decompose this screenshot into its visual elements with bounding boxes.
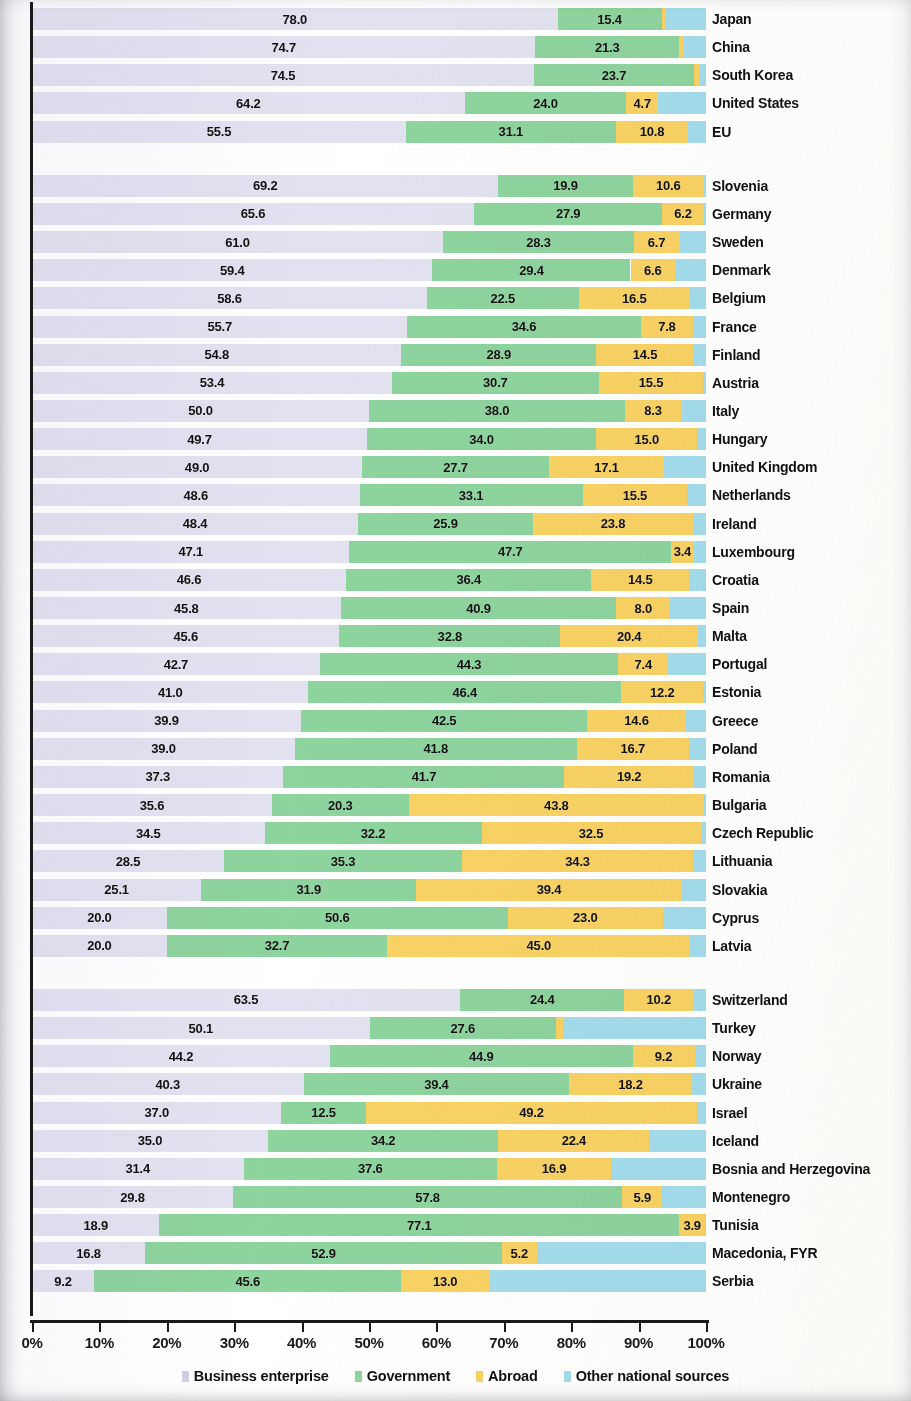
bar-segment-business-enterprise: 41.0 <box>32 681 308 703</box>
bar-segment-government: 57.8 <box>233 1186 623 1208</box>
segment-value-label: 15.5 <box>623 488 648 503</box>
bar-segment-abroad: 18.2 <box>569 1073 692 1095</box>
bar-row: 35.034.222.4 <box>32 1130 706 1152</box>
bar-segment-other <box>693 316 706 338</box>
bar-segment-government: 31.9 <box>201 879 416 901</box>
bar-segment-business-enterprise: 55.5 <box>32 121 406 143</box>
bar-row: 54.828.914.5 <box>32 344 706 366</box>
bar-segment-government: 77.1 <box>159 1214 679 1236</box>
segment-value-label: 36.4 <box>456 572 481 587</box>
bar-row: 39.041.816.7 <box>32 738 706 760</box>
bar-row: 20.032.745.0 <box>32 935 706 957</box>
bar-row: 64.224.04.7 <box>32 92 706 114</box>
bar-segment-abroad: 15.5 <box>583 484 687 506</box>
bar-row: 18.977.13.9 <box>32 1214 706 1236</box>
segment-value-label: 29.8 <box>120 1190 145 1205</box>
bar-segment-government: 44.3 <box>320 653 619 675</box>
bar-segment-government: 34.2 <box>268 1130 499 1152</box>
bar-segment-other <box>684 36 706 58</box>
segment-value-label: 9.2 <box>54 1274 71 1289</box>
x-axis-tick <box>32 1323 34 1332</box>
country-label: Greece <box>712 710 758 732</box>
bar-segment-abroad: 10.6 <box>633 175 704 197</box>
bar-segment-abroad: 14.6 <box>587 710 685 732</box>
segment-value-label: 47.7 <box>498 544 523 559</box>
bar-segment-other <box>665 8 706 30</box>
bar-segment-business-enterprise: 9.2 <box>32 1270 94 1292</box>
bar-segment-government: 34.6 <box>407 316 640 338</box>
segment-value-label: 20.0 <box>87 938 112 953</box>
segment-value-label: 12.5 <box>311 1105 336 1120</box>
bar-segment-government: 32.8 <box>339 625 560 647</box>
country-label: Sweden <box>712 231 764 253</box>
bar-segment-abroad: 13.0 <box>401 1270 489 1292</box>
segment-value-label: 45.6 <box>235 1274 260 1289</box>
bar-segment-other <box>694 766 706 788</box>
country-label: Ireland <box>712 513 757 535</box>
segment-value-label: 31.1 <box>499 124 524 139</box>
segment-value-label: 8.3 <box>644 403 661 418</box>
segment-value-label: 42.7 <box>164 657 189 672</box>
country-label: Bosnia and Herzegovina <box>712 1158 870 1180</box>
country-label: Turkey <box>712 1017 756 1039</box>
bar-row: 48.425.923.8 <box>32 513 706 535</box>
bar-segment-other <box>563 1017 706 1039</box>
x-axis-tick <box>234 1323 236 1332</box>
bar-segment-other <box>693 513 706 535</box>
x-axis-tick-label: 100% <box>687 1334 724 1351</box>
bar-segment-abroad: 5.2 <box>502 1242 537 1264</box>
bar-segment-other <box>663 907 706 929</box>
segment-value-label: 24.4 <box>530 992 555 1007</box>
bar-segment-business-enterprise: 44.2 <box>32 1045 330 1067</box>
bar-segment-other <box>697 428 706 450</box>
country-label: Macedonia, FYR <box>712 1242 817 1264</box>
bar-segment-business-enterprise: 39.0 <box>32 738 295 760</box>
bar-segment-abroad: 39.4 <box>416 879 682 901</box>
bar-row: 28.535.334.3 <box>32 850 706 872</box>
segment-value-label: 24.0 <box>533 96 558 111</box>
bar-row: 25.131.939.4 <box>32 879 706 901</box>
bar-segment-business-enterprise: 78.0 <box>32 8 558 30</box>
bar-segment-government: 42.5 <box>301 710 587 732</box>
bar-segment-government: 20.3 <box>272 794 409 816</box>
segment-value-label: 16.8 <box>76 1246 101 1261</box>
segment-value-label: 19.2 <box>617 769 642 784</box>
x-axis-tick-label: 10% <box>85 1334 114 1351</box>
bar-segment-business-enterprise: 50.0 <box>32 400 369 422</box>
segment-value-label: 5.9 <box>634 1190 651 1205</box>
country-label: Latvia <box>712 935 751 957</box>
bar-segment-other <box>662 1186 706 1208</box>
country-label: Switzerland <box>712 989 788 1011</box>
bar-segment-other <box>704 794 706 816</box>
bar-segment-business-enterprise: 34.5 <box>32 822 265 844</box>
segment-value-label: 42.5 <box>432 713 457 728</box>
segment-value-label: 49.7 <box>187 432 212 447</box>
country-label: Montenegro <box>712 1186 790 1208</box>
bar-segment-business-enterprise: 47.1 <box>32 541 349 563</box>
segment-value-label: 47.1 <box>178 544 203 559</box>
segment-value-label: 64.2 <box>236 96 261 111</box>
segment-value-label: 6.7 <box>648 235 665 250</box>
segment-value-label: 23.7 <box>602 68 627 83</box>
x-axis-tick-label: 30% <box>220 1334 249 1351</box>
country-label: Ukraine <box>712 1073 762 1095</box>
bar-segment-abroad: 3.9 <box>679 1214 705 1236</box>
x-axis-tick <box>504 1323 506 1332</box>
segment-value-label: 6.6 <box>644 263 661 278</box>
segment-value-label: 30.7 <box>483 375 508 390</box>
country-label: Bulgaria <box>712 794 766 816</box>
segment-value-label: 69.2 <box>253 178 278 193</box>
country-label: France <box>712 316 757 338</box>
bar-segment-government: 33.1 <box>360 484 583 506</box>
bar-segment-abroad: 23.0 <box>508 907 663 929</box>
segment-value-label: 4.7 <box>634 96 651 111</box>
bar-segment-government: 29.4 <box>432 259 630 281</box>
x-axis-tick <box>302 1323 304 1332</box>
bar-segment-business-enterprise: 65.6 <box>32 203 474 225</box>
bar-segment-government: 35.3 <box>224 850 462 872</box>
bar-segment-abroad: 7.8 <box>641 316 694 338</box>
bar-row: 55.734.67.8 <box>32 316 706 338</box>
segment-value-label: 57.8 <box>415 1190 440 1205</box>
bar-segment-abroad: 23.8 <box>533 513 693 535</box>
segment-value-label: 7.4 <box>635 657 652 672</box>
